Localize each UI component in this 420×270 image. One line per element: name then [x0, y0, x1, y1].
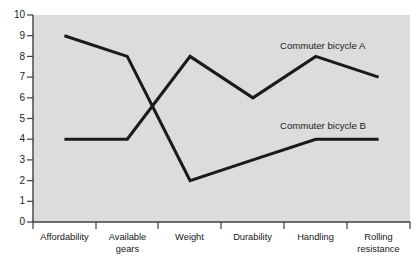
x-label-line1: Handling [284, 232, 347, 244]
x-label-durability: Durability [221, 232, 284, 244]
line-chart: 10 9 8 7 6 5 4 3 2 1 0 [0, 0, 420, 270]
x-axis-ticks [33, 222, 410, 229]
x-label-rolling-resistance: Rolling resistance [347, 232, 410, 255]
y-axis-ticks [27, 15, 33, 222]
x-label-affordability: Affordability [33, 232, 96, 244]
x-label-line1: Available [96, 232, 159, 244]
series-label-commuter-bicycle-b: Commuter bicycle B [280, 120, 366, 131]
x-label-line1: Weight [158, 232, 221, 244]
x-label-line2: gears [96, 244, 159, 256]
x-label-line2: resistance [347, 244, 410, 256]
x-label-line1: Rolling [347, 232, 410, 244]
x-label-line1: Durability [221, 232, 284, 244]
x-label-handling: Handling [284, 232, 347, 244]
series-label-commuter-bicycle-a: Commuter bicycle A [280, 40, 365, 51]
x-label-weight: Weight [158, 232, 221, 244]
x-label-line1: Affordability [33, 232, 96, 244]
x-label-available-gears: Available gears [96, 232, 159, 255]
series-line-commuter-bicycle-b [64, 36, 378, 181]
